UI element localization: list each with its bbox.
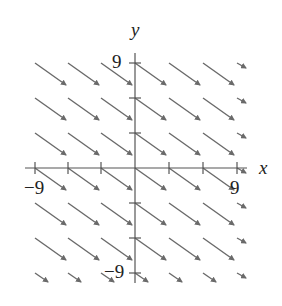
slope-arrow	[237, 273, 246, 278]
slope-arrow	[169, 168, 200, 190]
slope-arrow	[68, 63, 99, 85]
slope-arrow	[135, 238, 166, 260]
slope-arrow	[135, 203, 166, 225]
slope-arrow	[101, 168, 132, 190]
slope-arrow	[101, 133, 132, 155]
slope-arrow	[101, 203, 132, 225]
slope-arrow	[169, 63, 200, 85]
axes	[25, 53, 247, 283]
x-max-label: 9	[230, 178, 240, 197]
slope-arrow	[169, 238, 200, 260]
slope-arrow	[135, 168, 166, 190]
slope-arrow	[203, 133, 234, 155]
slope-arrow	[169, 133, 200, 155]
y-axis-label: y	[131, 20, 139, 39]
slope-arrow	[169, 203, 200, 225]
slope-arrow	[68, 168, 99, 190]
slope-arrow	[135, 133, 166, 155]
slope-arrow	[169, 98, 200, 120]
slope-arrow	[101, 238, 132, 260]
slope-arrow	[237, 203, 246, 208]
plot-area	[0, 0, 282, 306]
slope-arrow	[237, 98, 246, 103]
slope-arrow	[35, 63, 66, 85]
slope-arrow	[101, 98, 132, 120]
slope-arrow	[35, 273, 48, 282]
y-max-label: 9	[112, 52, 122, 71]
slope-arrow	[68, 133, 99, 155]
slope-arrow	[203, 203, 234, 225]
slope-arrow	[237, 133, 246, 138]
slope-arrow	[169, 273, 182, 282]
slope-arrow	[68, 203, 99, 225]
direction-arrows	[35, 63, 246, 282]
slope-arrow	[135, 98, 166, 120]
x-axis-label: x	[259, 158, 267, 177]
slope-arrow	[35, 133, 66, 155]
slope-field-diagram: y x 9 −9 −9 9	[0, 0, 282, 306]
slope-arrow	[68, 98, 99, 120]
slope-arrow	[35, 238, 66, 260]
slope-arrow	[203, 273, 216, 282]
slope-arrow	[135, 273, 148, 282]
slope-arrow	[203, 63, 234, 85]
slope-arrow	[237, 63, 246, 68]
slope-arrow	[237, 168, 246, 173]
slope-arrow	[135, 63, 166, 85]
x-min-label: −9	[24, 178, 44, 197]
slope-arrow	[35, 203, 66, 225]
slope-arrow	[68, 273, 81, 282]
slope-arrow	[68, 238, 99, 260]
slope-arrow	[35, 98, 66, 120]
slope-arrow	[237, 238, 246, 243]
slope-arrow	[203, 238, 234, 260]
slope-arrow	[203, 98, 234, 120]
y-min-label: −9	[104, 262, 124, 281]
